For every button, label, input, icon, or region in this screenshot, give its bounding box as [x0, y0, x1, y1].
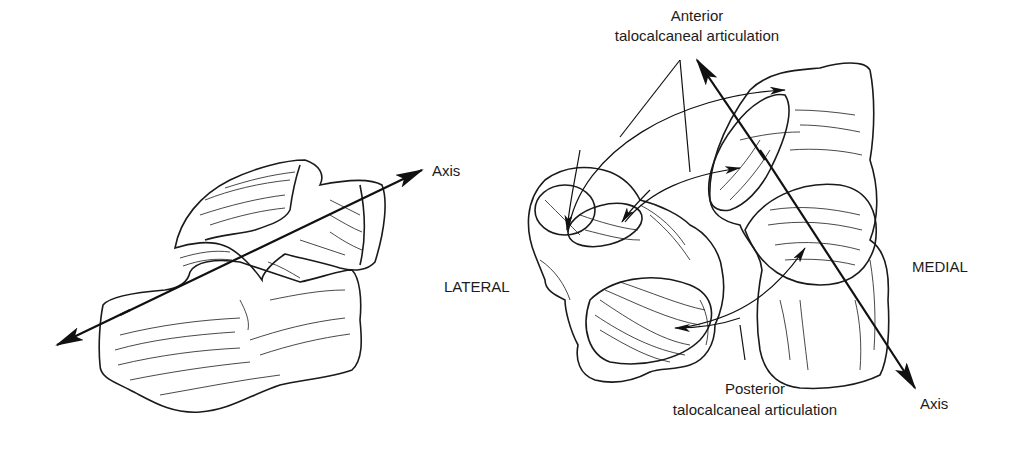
left-bone-group — [99, 160, 385, 412]
right-axis-label: Axis — [920, 395, 948, 412]
right-lateral-bone — [528, 167, 723, 382]
diagram-canvas — [0, 0, 1015, 451]
anterior-arc-outer — [568, 90, 785, 232]
anterior-arc-inner — [625, 168, 740, 222]
anterior-leader-2 — [680, 60, 690, 172]
posterior-label-line2: talocalcaneal articulation — [673, 401, 837, 418]
medial-label: MEDIAL — [912, 258, 968, 275]
left-axis-arrow — [120, 170, 422, 315]
left-axis-tail — [57, 310, 130, 345]
articulation-arrows — [567, 60, 805, 360]
left-calcaneus-outline — [99, 260, 361, 412]
posterior-label-line1: Posterior — [725, 380, 785, 397]
anterior-facet-medial — [709, 95, 789, 211]
lateral-label: LATERAL — [444, 278, 510, 295]
posterior-facet-lateral — [586, 278, 711, 364]
anterior-label-line1: Anterior — [671, 7, 724, 24]
anterior-label-line2: talocalcaneal articulation — [615, 27, 779, 44]
right-axis-arrow — [760, 150, 915, 388]
left-axis-label: Axis — [432, 162, 460, 179]
right-medial-bone — [709, 63, 889, 388]
medial-bone-outline — [710, 63, 889, 388]
anterior-leader-1 — [620, 60, 680, 137]
right-axis-tail — [697, 60, 765, 160]
posterior-leader — [740, 325, 745, 360]
posterior-facet-medial — [745, 184, 876, 285]
lateral-bone-outline — [528, 167, 723, 382]
